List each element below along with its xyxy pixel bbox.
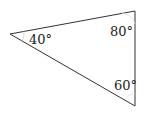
angle-label-left: 40° (29, 32, 52, 47)
triangle-diagram: 40° 80° 60° (0, 0, 144, 114)
angle-arc-top-right (122, 13, 135, 24)
angle-label-top-right: 80° (110, 24, 133, 39)
angle-arc-left (22, 31, 24, 41)
angle-label-bottom-right: 60° (114, 78, 137, 93)
angle-arc-bottom-right (125, 94, 135, 99)
